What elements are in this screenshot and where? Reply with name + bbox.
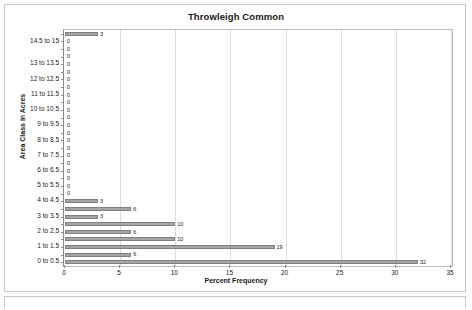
y-tick-label: 10 to 10.5 — [7, 105, 59, 112]
x-gridline — [286, 30, 287, 266]
bar-value-label: 0 — [67, 61, 70, 67]
y-tick-mark — [61, 87, 64, 88]
bar-value-label: 0 — [67, 160, 70, 166]
bar-value-label: 0 — [67, 53, 70, 59]
y-tick-mark — [61, 110, 64, 111]
y-tick-mark — [61, 64, 64, 65]
y-tick-label: 9 to 9.5 — [7, 120, 59, 127]
y-tick-mark — [61, 102, 64, 103]
x-tick-label: 15 — [217, 269, 241, 276]
bar-value-label: 19 — [277, 244, 283, 250]
bar-value-label: 32 — [420, 259, 426, 265]
bar — [65, 222, 175, 226]
y-tick-mark — [61, 41, 64, 42]
y-tick-mark — [61, 194, 64, 195]
y-tick-mark — [61, 34, 64, 35]
x-tick-label: 10 — [162, 269, 186, 276]
y-tick-mark — [61, 148, 64, 149]
y-tick-mark — [61, 118, 64, 119]
bar-value-label: 0 — [67, 84, 70, 90]
bar-value-label: 0 — [67, 76, 70, 82]
y-tick-label: 5 to 5.5 — [7, 181, 59, 188]
y-tick-label: 6 to 6.5 — [7, 166, 59, 173]
y-tick-mark — [61, 255, 64, 256]
bar-value-label: 0 — [67, 114, 70, 120]
bar-value-label: 0 — [67, 46, 70, 52]
screenshot-root: Throwleigh Common Area Class in Acres 32… — [0, 0, 472, 310]
chart-frame: Throwleigh Common Area Class in Acres 32… — [4, 4, 466, 292]
y-tick-label: 1 to 1.5 — [7, 242, 59, 249]
x-gridline — [175, 30, 176, 266]
bar — [65, 32, 98, 36]
x-gridline — [396, 30, 397, 266]
bar-value-label: 0 — [67, 122, 70, 128]
y-tick-label: 12 to 12.5 — [7, 75, 59, 82]
y-tick-mark — [61, 262, 64, 263]
bar — [65, 260, 418, 264]
x-tick-mark — [119, 265, 120, 268]
bar — [65, 215, 98, 219]
y-tick-mark — [61, 201, 64, 202]
x-axis-title: Percent Frequency — [5, 277, 467, 284]
y-tick-label: 7 to 7.5 — [7, 151, 59, 158]
x-tick-label: 5 — [107, 269, 131, 276]
y-tick-mark — [61, 125, 64, 126]
y-tick-mark — [61, 95, 64, 96]
y-tick-mark — [61, 178, 64, 179]
y-tick-label: 2 to 2.5 — [7, 227, 59, 234]
x-tick-mark — [340, 265, 341, 268]
y-tick-mark — [61, 209, 64, 210]
y-tick-label: 11 to 11.5 — [7, 90, 59, 97]
y-tick-mark — [61, 224, 64, 225]
y-tick-mark — [61, 186, 64, 187]
x-tick-mark — [64, 265, 65, 268]
x-tick-label: 30 — [383, 269, 407, 276]
bar-value-label: 3 — [100, 31, 103, 37]
bar — [65, 207, 131, 211]
plot-area: 32619106103630000000000000000000003 — [63, 29, 453, 267]
bar-value-label: 0 — [67, 107, 70, 113]
x-tick-mark — [285, 265, 286, 268]
y-tick-mark — [61, 133, 64, 134]
y-tick-mark — [61, 57, 64, 58]
y-tick-label: 3 to 3.5 — [7, 212, 59, 219]
bar — [65, 245, 275, 249]
x-tick-label: 20 — [273, 269, 297, 276]
x-tick-mark — [395, 265, 396, 268]
x-gridline — [230, 30, 231, 266]
y-tick-mark — [61, 163, 64, 164]
bar-value-label: 0 — [67, 175, 70, 181]
bar-value-label: 10 — [177, 221, 183, 227]
y-tick-label: 8 to 8.5 — [7, 136, 59, 143]
y-tick-label: 0 to 0.5 — [7, 257, 59, 264]
bar-value-label: 0 — [67, 152, 70, 158]
bar-value-label: 0 — [67, 190, 70, 196]
y-tick-label: 13 to 13.5 — [7, 59, 59, 66]
y-tick-mark — [61, 79, 64, 80]
y-tick-mark — [61, 171, 64, 172]
y-tick-mark — [61, 239, 64, 240]
bar-value-label: 0 — [67, 92, 70, 98]
y-tick-mark — [61, 72, 64, 73]
bar-value-label: 6 — [133, 229, 136, 235]
x-tick-label: 0 — [52, 269, 76, 276]
y-tick-mark — [61, 49, 64, 50]
bar-value-label: 0 — [67, 130, 70, 136]
lower-panel — [4, 296, 466, 308]
bar-value-label: 0 — [67, 137, 70, 143]
x-tick-mark — [174, 265, 175, 268]
bar-value-label: 3 — [100, 198, 103, 204]
x-tick-mark — [450, 265, 451, 268]
x-gridline — [341, 30, 342, 266]
bar-value-label: 6 — [133, 251, 136, 257]
bar — [65, 199, 98, 203]
y-tick-mark — [61, 140, 64, 141]
y-tick-label: 4 to 4.5 — [7, 196, 59, 203]
y-tick-mark — [61, 247, 64, 248]
bar-value-label: 10 — [177, 236, 183, 242]
bar-value-label: 3 — [100, 213, 103, 219]
x-tick-label: 35 — [438, 269, 462, 276]
y-tick-label: 14.5 to 15 — [7, 37, 59, 44]
x-tick-label: 25 — [328, 269, 352, 276]
bar-value-label: 0 — [67, 183, 70, 189]
